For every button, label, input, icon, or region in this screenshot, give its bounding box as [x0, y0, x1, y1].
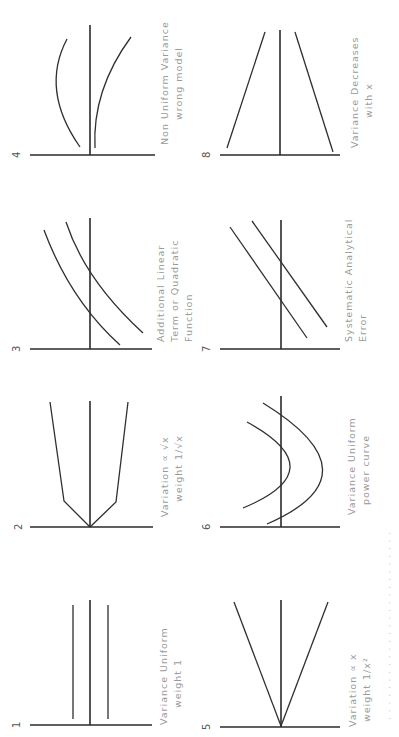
panel-caption-line1: Additional Linear: [155, 245, 166, 342]
panel-caption-line2: power curve: [360, 435, 371, 505]
panel-number: 6: [201, 523, 212, 530]
panel-5: 5 Variation ∝ x weight 1/x²: [201, 600, 372, 730]
residual-band-upper: [234, 602, 281, 726]
panel-number: 1: [11, 721, 22, 728]
residual-band-lower: [295, 32, 333, 152]
panel-caption-line1: Non Uniform Variance: [159, 21, 170, 145]
panel-number: 3: [11, 345, 22, 352]
panel-number: 2: [13, 523, 24, 530]
panel-caption-line3: Function: [183, 294, 194, 342]
residual-curve-outer: [263, 403, 323, 524]
residual-curve-lower: [66, 222, 143, 333]
panel-number: 7: [201, 345, 212, 352]
panel-number: 4: [11, 151, 22, 158]
panel-caption-line1: Variation ∝ x: [347, 653, 358, 727]
panel-number: 8: [201, 151, 212, 158]
panel-caption-line1: Systematic Analytical: [343, 218, 354, 342]
panel-2: 2 Variation ∝ √x weight 1/√x: [13, 401, 184, 530]
panel-7: 7 Systematic Analytical Error: [201, 218, 368, 352]
panel-caption-line1: Variance Uniform: [346, 417, 357, 515]
residual-band-lower: [90, 402, 128, 527]
panel-caption-line1: Variation ∝ √x: [159, 436, 170, 517]
panel-1: 1 Variance Uniform weight 1: [11, 600, 183, 728]
panel-caption-line2: weight 1: [172, 659, 183, 708]
panel-caption-line1: Variance Decreases: [349, 36, 360, 148]
residual-band-upper: [227, 32, 265, 148]
panel-caption-line2: wrong model: [173, 47, 184, 120]
panel-4: 4 Non Uniform Variance wrong model: [11, 21, 184, 158]
panel-8: 8 Variance Decreases with x: [201, 30, 374, 158]
residual-curve-upper: [44, 230, 120, 345]
panel-caption-line2: weight 1/x²: [361, 657, 372, 722]
panel-caption-line2: weight 1/√x: [173, 435, 184, 502]
panel-caption-line2: with x: [363, 83, 374, 118]
residual-curve-upper: [56, 39, 80, 147]
residual-curve-inner: [243, 422, 290, 508]
panel-caption-line1: Variance Uniform: [158, 627, 169, 725]
residual-band-upper: [50, 402, 90, 527]
panel-6: 6 Variance Uniform power curve: [201, 396, 371, 530]
residual-band-lower: [281, 602, 328, 726]
panel-caption-line2: Error: [357, 314, 368, 342]
caption-fragment: · · · · · · · · · · · · · · · · · · · · …: [385, 531, 395, 720]
residual-curve-lower: [95, 37, 131, 148]
residual-patterns-figure: 4 Non Uniform Variance wrong model 3 Add…: [0, 0, 399, 737]
panel-caption-line2: Term or Quadratic: [169, 240, 180, 343]
panel-3: 3 Additional Linear Term or Quadratic Fu…: [11, 218, 194, 352]
figure-caption-faint: · · · · · · · · · · · · · · · · · · · · …: [385, 531, 395, 720]
panel-number: 5: [201, 723, 212, 730]
